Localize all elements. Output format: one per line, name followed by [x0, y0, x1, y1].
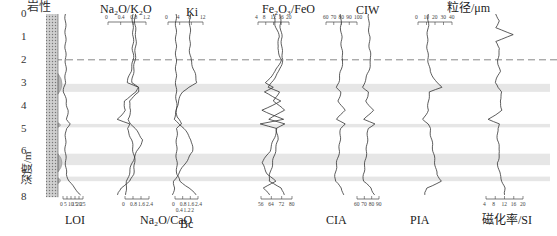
axis-tick-label: 10: [424, 14, 430, 20]
axis-tick-label: 90: [346, 14, 352, 20]
geochemistry-depth-profile-figure: 012345678岩性深度/m0510152025LOI00.40.81.2Na…: [0, 0, 557, 236]
axis-tick-label: 25: [80, 201, 86, 207]
axis-tick-label: 2.4: [195, 201, 202, 207]
series-title: Na₂O/K₂O: [100, 3, 152, 15]
series-title: CIA: [326, 214, 347, 226]
series-title: 粒径/μm: [447, 2, 490, 14]
axis-tick-label: 20: [432, 14, 438, 20]
axis-tick-label: 80: [369, 201, 375, 207]
axis-tick-label: 8: [492, 201, 495, 207]
series-1: [108, 14, 146, 195]
axis-tick-label: 70: [361, 201, 367, 207]
series-title: Bc: [180, 218, 193, 230]
axis-tick-label: 12: [502, 201, 508, 207]
series-0: [63, 14, 83, 199]
series-title: CIW: [356, 4, 379, 16]
series-3: [168, 14, 203, 195]
series-title: LOI: [65, 214, 85, 226]
series-5: [258, 14, 289, 195]
axis-tick-label: 0: [415, 14, 418, 20]
axis-tick-label: 60: [354, 201, 360, 207]
series-7: [326, 14, 357, 195]
lithology-column: [46, 14, 62, 197]
axis-tick-label-secondary: 1.2: [184, 207, 191, 213]
series-9: [418, 14, 452, 195]
axis-tick-label: 56: [258, 201, 264, 207]
axis-tick-label-secondary: 0.4: [176, 207, 183, 213]
axis-tick-label-secondary: 2: [191, 207, 194, 213]
series-title: Ki: [186, 6, 198, 18]
axis-tick-label: 0: [165, 14, 168, 20]
series-title: PIA: [410, 214, 429, 226]
series-title: 磁化率/SI: [482, 214, 532, 226]
axis-tick-label: 0.8: [130, 201, 137, 207]
axis-tick-label: 80: [339, 14, 345, 20]
axis-tick-label: 12: [200, 14, 206, 20]
y-axis-title: 深度/m: [18, 151, 34, 185]
axis-tick-label: 1.6: [138, 201, 145, 207]
axis-tick-label: 0: [172, 201, 175, 207]
axis-tick-label: 72: [279, 201, 285, 207]
axis-tick-label: 20: [520, 201, 526, 207]
axis-tick-label: 0: [122, 201, 125, 207]
series-8: [357, 14, 379, 199]
axis-tick-label: 4: [483, 201, 486, 207]
series-title: Fe₂O₃/FeO: [262, 3, 315, 15]
y-tick-label: 8: [21, 191, 27, 202]
highlight-band: [60, 177, 550, 182]
y-tick-label: 2: [21, 54, 27, 65]
axis-tick-label: 0: [60, 201, 63, 207]
highlight-band: [60, 154, 550, 165]
axis-tick-label: 60: [323, 14, 329, 20]
y-tick-label: 3: [21, 77, 27, 88]
y-tick-label: 1: [21, 31, 27, 42]
axis-tick-label: 5: [64, 201, 67, 207]
axis-tick-label: 80: [289, 201, 295, 207]
y-tick-label: 5: [21, 123, 27, 134]
lithology-label: 岩性: [27, 2, 51, 13]
axis-tick-label: 30: [441, 14, 447, 20]
axis-tick-label: 70: [331, 14, 337, 20]
y-tick-label: 4: [21, 100, 27, 111]
axis-tick-label: 2.4: [146, 201, 153, 207]
axis-tick-label: 64: [268, 201, 274, 207]
series-2: [125, 14, 149, 199]
series-4: [175, 14, 198, 199]
series-10: [486, 14, 523, 199]
y-tick-label: 0: [21, 8, 27, 19]
axis-tick-label: 16: [511, 201, 517, 207]
axis-tick-label: 4: [177, 14, 180, 20]
axis-tick-label: 4: [255, 14, 258, 20]
axis-tick-label: 90: [376, 201, 382, 207]
